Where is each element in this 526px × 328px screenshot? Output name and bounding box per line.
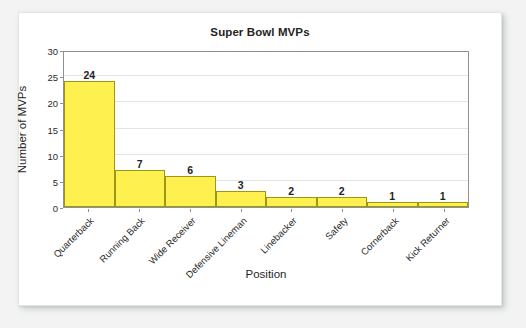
x-tick-mark [444,209,445,212]
y-tick-mark [60,103,63,104]
x-tick-mark [190,209,191,212]
bar[interactable]: 6 [165,176,216,207]
chart-title: Super Bowl MVPs [19,26,501,38]
bar-value-label: 1 [419,190,468,202]
y-axis-title: Number of MVPs [16,51,32,208]
bar-slot: 6 [165,52,216,207]
bar[interactable]: 3 [216,191,267,207]
x-tick-mark [88,209,89,212]
y-tick-mark [60,156,63,157]
x-tick-mark [342,209,343,212]
x-axis: QuarterbackRunning BackWide ReceiverDefe… [63,209,469,269]
x-axis-title: Position [63,268,469,280]
bar-value-label: 2 [318,185,367,197]
bar-slot: 1 [367,52,418,207]
bar-slot: 24 [64,52,115,207]
y-tick-label: 0 [53,203,58,214]
x-tick-slot: Safety [317,209,368,269]
plot-area: 247632211 [63,51,469,208]
x-tick-slot: Linebacker [266,209,317,269]
y-tick-mark [60,130,63,131]
bar-slot: 2 [317,52,368,207]
page-root: Super Bowl MVPs Number of MVPs 247632211… [0,0,526,328]
bar-value-label: 6 [166,164,215,176]
y-tick-label: 10 [47,150,58,161]
bar-value-label: 1 [368,190,417,202]
x-tick-mark [139,209,140,212]
chart-card: Super Bowl MVPs Number of MVPs 247632211… [18,12,502,306]
y-tick-label: 20 [47,98,58,109]
bar-slot: 1 [418,52,469,207]
x-tick-label: Quarterback [51,215,96,260]
y-tick-mark [60,182,63,183]
bar-slot: 2 [266,52,317,207]
x-tick-mark [241,209,242,212]
bar-series: 247632211 [64,52,468,207]
bar[interactable]: 2 [266,197,317,207]
bar[interactable]: 1 [418,202,469,207]
bar[interactable]: 24 [64,81,115,207]
y-tick-label: 30 [47,46,58,57]
bar-value-label: 24 [65,69,114,81]
bar-value-label: 3 [217,179,266,191]
x-tick-mark [291,209,292,212]
y-tick-mark [60,77,63,78]
bar[interactable]: 1 [367,202,418,207]
x-tick-slot: Defensive Lineman [215,209,266,269]
bar-value-label: 2 [267,185,316,197]
bar-slot: 3 [216,52,267,207]
bar[interactable]: 7 [115,170,166,207]
y-tick-label: 25 [47,72,58,83]
y-tick-mark [60,51,63,52]
bar-slot: 7 [115,52,166,207]
y-tick-label: 15 [47,124,58,135]
bar-value-label: 7 [116,158,165,170]
bar[interactable]: 2 [317,197,368,207]
x-tick-slot: Kick Returner [418,209,469,269]
x-tick-mark [393,209,394,212]
x-tick-label: Safety [323,215,350,242]
y-tick-label: 5 [53,176,58,187]
